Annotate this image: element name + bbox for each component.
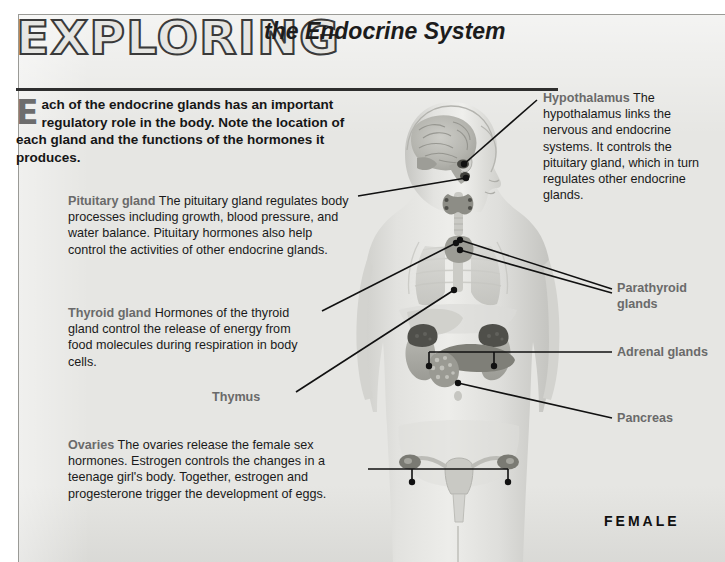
human-body-figure [353, 96, 563, 562]
figure-sex-label: FEMALE [604, 513, 680, 529]
gland-thyroid [443, 194, 474, 214]
callout-ovaries-heading: Ovaries [68, 438, 114, 452]
intro-text: ach of the endocrine glands has an impor… [16, 97, 344, 165]
intro-dropcap: E [16, 98, 39, 128]
callout-ovaries: Ovaries The ovaries release the female s… [68, 437, 373, 502]
gland-adrenal-left [407, 324, 437, 347]
callout-parathyroid-heading: Parathyroid glands [617, 281, 717, 312]
callout-hypothalamus-body: The hypothalamus links the nervous and e… [543, 91, 699, 202]
title-block: EXPLORING the Endocrine System [16, 12, 576, 84]
title-rule [16, 88, 558, 91]
gland-adrenal-right [478, 324, 508, 347]
callout-thyroid-heading: Thyroid gland [68, 306, 151, 320]
callout-hypothalamus-heading: Hypothalamus [543, 91, 630, 105]
callout-pituitary-heading: Pituitary gland [68, 194, 155, 208]
callout-hypothalamus: Hypothalamus The hypothalamus links the … [543, 90, 715, 203]
page-title-subject: the Endocrine System [264, 18, 564, 44]
callout-thymus-heading: Thymus [212, 390, 260, 406]
intro-paragraph: Each of the endocrine glands has an impo… [16, 96, 346, 166]
callout-thyroid: Thyroid gland Hormones of the thyroid gl… [68, 305, 318, 370]
callout-pancreas-heading: Pancreas [617, 411, 717, 427]
gland-pituitary [460, 172, 470, 180]
gland-hypothalamus [457, 160, 469, 169]
poster-page: EXPLORING the Endocrine System Each of t… [0, 0, 725, 562]
callout-pituitary: Pituitary gland The pituitary gland regu… [68, 193, 353, 258]
callout-adrenal-heading: Adrenal glands [617, 345, 717, 361]
gland-thymus [445, 236, 474, 263]
